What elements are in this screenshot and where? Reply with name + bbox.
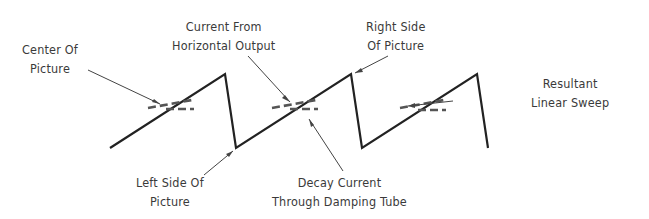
label-resultant-linear-sweep: Resultant Linear Sweep: [531, 74, 609, 112]
label-current-from-horizontal-output: Current From Horizontal Output: [172, 17, 275, 55]
label-line: Picture: [22, 59, 78, 78]
label-left-side-of-picture: Left Side Of Picture: [136, 173, 204, 211]
label-center-of-picture: Center Of Picture: [22, 40, 78, 78]
label-line: Picture: [136, 192, 204, 211]
label-line: Center Of: [22, 40, 78, 59]
arrowheads: [152, 68, 415, 157]
label-line: Of Picture: [366, 36, 426, 55]
label-decay-current: Decay Current Through Damping Tube: [272, 173, 407, 211]
label-line: Left Side Of: [136, 173, 204, 192]
label-line: Current From: [172, 17, 275, 36]
label-line: Linear Sweep: [531, 93, 609, 112]
leader-lines: [88, 56, 453, 175]
label-line: Through Damping Tube: [272, 192, 407, 211]
label-line: Decay Current: [272, 173, 407, 192]
dashed-current-components: [148, 100, 446, 110]
label-line: Horizontal Output: [172, 36, 275, 55]
label-line: Resultant: [531, 74, 609, 93]
label-right-side-of-picture: Right Side Of Picture: [366, 17, 426, 55]
label-line: Right Side: [366, 17, 426, 36]
